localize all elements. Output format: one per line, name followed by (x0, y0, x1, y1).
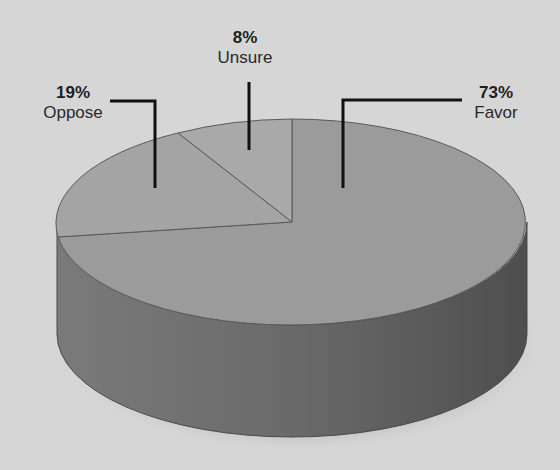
pie-chart (0, 0, 560, 470)
label-oppose: 19% Oppose (28, 83, 118, 122)
label-oppose-percent: 19% (28, 83, 118, 103)
label-favor-percent: 73% (456, 83, 536, 103)
label-unsure: 8% Unsure (205, 28, 285, 67)
label-favor-name: Favor (456, 103, 536, 123)
label-favor: 73% Favor (456, 83, 536, 122)
label-unsure-percent: 8% (205, 28, 285, 48)
label-unsure-name: Unsure (205, 48, 285, 68)
label-oppose-name: Oppose (28, 103, 118, 123)
